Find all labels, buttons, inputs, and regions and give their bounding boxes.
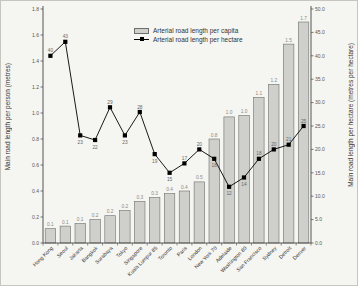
left-tick-label: 0.4: [32, 188, 39, 194]
line-value-label: 19: [152, 159, 158, 164]
line-value-label: 17: [182, 156, 188, 161]
bar-value-label: 1.5: [285, 38, 292, 43]
line-value-label: 25: [301, 119, 307, 124]
line-marker-jakarta: [78, 133, 82, 137]
left-tick-label: 0.8: [32, 136, 39, 142]
line-marker-detroit: [287, 143, 291, 147]
line-value-label: 14: [241, 182, 247, 187]
line-value-label: 23: [122, 140, 128, 145]
bar-value-label: 0.2: [92, 213, 99, 218]
legend-line-marker-icon: [134, 37, 149, 43]
right-tick-label: 35.0: [315, 76, 325, 82]
line-value-label: 23: [78, 140, 84, 145]
line-value-label: 29: [107, 100, 113, 105]
left-tick-label: 0.0: [32, 240, 39, 246]
line-value-label: 43: [63, 34, 69, 39]
bar-surabaya: [105, 216, 116, 243]
line-marker-sydney: [272, 147, 276, 151]
line-marker-toronto: [168, 171, 172, 175]
line-marker-tokyo: [123, 133, 127, 137]
line-marker-hong-kong: [48, 54, 52, 58]
x-category-label-paris: Paris: [176, 245, 189, 258]
bar-value-label: 0.1: [62, 220, 69, 225]
bar-sydney: [269, 84, 280, 243]
right-axis-title: Main road length per hectare (metres per…: [347, 43, 354, 187]
x-category-label-denver: Denver: [291, 245, 307, 261]
line-marker-san-francisco: [257, 157, 261, 161]
line-value-label: 12: [226, 191, 232, 196]
bar-paris: [179, 191, 190, 243]
line-value-label: 15: [167, 177, 173, 182]
line-marker-london: [197, 147, 201, 151]
x-category-label-hong-kong: Hong Kong: [32, 245, 55, 268]
line-marker-paris: [182, 161, 186, 165]
bar-value-label: 1.7: [300, 16, 307, 21]
left-axis-title: Main road length per person (metres): [4, 63, 11, 170]
bar-tokyo: [120, 211, 131, 244]
left-tick-label: 1.2: [32, 84, 39, 90]
line-marker-denver: [302, 124, 306, 128]
bar-value-label: 0.3: [136, 195, 143, 200]
bar-value-label: 1.2: [270, 78, 277, 83]
right-tick-label: 45.0: [315, 29, 325, 35]
legend-entry-capita: Arterial road length per capita: [134, 27, 243, 34]
line-series: [50, 42, 303, 187]
right-tick-label: 5.0: [315, 216, 322, 222]
legend-bar-label: Arterial road length per capita: [153, 27, 238, 34]
bar-value-label: 1.0: [241, 109, 248, 114]
left-tick-label: 1.8: [32, 6, 39, 12]
line-marker-surabaya: [108, 105, 112, 109]
line-marker-seoul: [63, 40, 67, 44]
bar-hong-kong: [45, 229, 56, 243]
line-marker-adelaide: [227, 185, 231, 189]
right-tick-label: 15.0: [315, 170, 325, 176]
bar-san-francisco: [254, 97, 265, 243]
x-category-label-sydney: Sydney: [261, 245, 278, 262]
chart-figure: 0.10.10.10.20.20.20.30.30.40.40.50.81.01…: [0, 0, 358, 286]
left-tick-label: 1.6: [32, 32, 39, 38]
bar-singapore: [135, 201, 146, 243]
bar-value-label: 1.1: [256, 91, 263, 96]
bar-kuala-lumpur-85: [149, 198, 160, 244]
bar-jakarta: [75, 224, 86, 244]
line-marker-singapore: [138, 110, 142, 114]
line-marker-washington-80: [242, 175, 246, 179]
right-tick-label: 25.0: [315, 123, 325, 129]
bar-london: [194, 182, 205, 243]
bar-value-label: 0.3: [151, 191, 158, 196]
bar-value-label: 0.4: [181, 185, 188, 190]
left-tick-label: 0.6: [32, 162, 39, 168]
line-marker-kuala-lumpur-85: [153, 152, 157, 156]
bar-value-label: 0.2: [107, 209, 114, 214]
bar-value-label: 0.1: [77, 217, 84, 222]
right-tick-label: 20.0: [315, 146, 325, 152]
line-value-label: 40: [48, 48, 54, 53]
bar-value-label: 0.1: [47, 222, 54, 227]
right-tick-label: 30.0: [315, 99, 325, 105]
right-tick-label: 10.0: [315, 193, 325, 199]
legend-entry-hectare: Arterial road length per hectare: [134, 36, 243, 43]
right-tick-label: 0.0: [315, 240, 322, 246]
line-value-label: 20: [197, 142, 203, 147]
legend-line-label: Arterial road length per hectare: [153, 36, 243, 43]
x-category-label-detroit: Detroit: [277, 245, 292, 260]
line-marker-new-york-70: [212, 157, 216, 161]
line-value-label: 22: [92, 145, 98, 150]
line-value-label: 18: [256, 151, 262, 156]
left-tick-label: 1.0: [32, 110, 39, 116]
line-value-label: 18: [212, 163, 218, 168]
line-marker-bangkok: [93, 138, 97, 142]
bar-bangkok: [90, 220, 101, 243]
bar-seoul: [60, 226, 71, 243]
bar-value-label: 0.4: [166, 187, 173, 192]
bar-new-york-70: [209, 139, 220, 243]
bar-value-label: 1.0: [226, 110, 233, 115]
bar-value-label: 0.2: [122, 204, 129, 209]
left-tick-label: 0.2: [32, 214, 39, 220]
right-tick-label: 50.0: [315, 6, 325, 12]
bar-denver: [298, 22, 309, 243]
x-category-label-toronto: Toronto: [157, 245, 174, 262]
bar-value-label: 0.5: [196, 175, 203, 180]
line-value-label: 28: [137, 105, 143, 110]
bar-toronto: [164, 194, 175, 243]
